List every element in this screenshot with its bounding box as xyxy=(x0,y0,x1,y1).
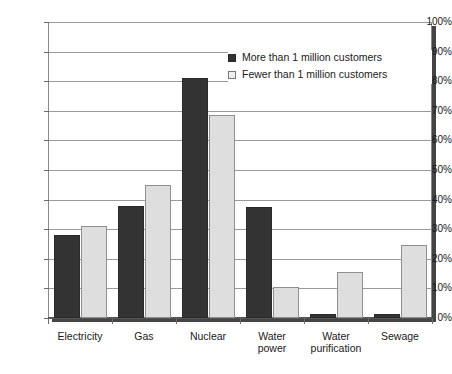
x-category-label-electricity: Electricity xyxy=(48,330,112,342)
x-category-label-gas: Gas xyxy=(112,330,176,342)
bar-water-power-fewer xyxy=(273,287,299,318)
bar-water-power-more xyxy=(246,207,272,318)
x-category-label-line: Sewage xyxy=(381,330,419,342)
x-category-label-line: Nuclear xyxy=(190,330,226,342)
x-category-label-line: Water xyxy=(322,330,350,342)
bar-nuclear-more xyxy=(182,78,208,318)
legend-item-more: More than 1 million customers xyxy=(228,50,432,65)
legend-item-fewer: Fewer than 1 million customers xyxy=(228,67,432,82)
x-category-label-water-power: Waterpower xyxy=(240,330,304,354)
bar-sewage-more xyxy=(374,314,400,318)
x-tick-mark xyxy=(432,318,433,324)
x-category-label-line: Gas xyxy=(134,330,153,342)
x-category-label-line: Electricity xyxy=(58,330,103,342)
legend-swatch-fewer-icon xyxy=(228,71,236,79)
bar-nuclear-fewer xyxy=(209,115,235,318)
x-category-label-sewage: Sewage xyxy=(368,330,432,342)
legend-label-fewer: Fewer than 1 million customers xyxy=(242,69,387,80)
x-tick-mark xyxy=(240,318,241,324)
chart-legend: More than 1 million customers Fewer than… xyxy=(228,50,432,84)
bar-gas-fewer xyxy=(145,185,171,318)
x-tick-mark xyxy=(48,318,49,324)
bar-sewage-fewer xyxy=(401,245,427,318)
x-tick-mark xyxy=(176,318,177,324)
x-category-label-line: power xyxy=(240,342,304,354)
x-category-label-line: purification xyxy=(304,342,368,354)
bar-electricity-more xyxy=(54,235,80,318)
bar-gas-more xyxy=(118,206,144,318)
x-tick-mark xyxy=(112,318,113,324)
bar-electricity-fewer xyxy=(81,226,107,318)
bar-water-purification-more xyxy=(310,314,336,318)
bar-water-purification-fewer xyxy=(337,272,363,318)
x-tick-mark xyxy=(304,318,305,324)
x-category-label-water-purification: Waterpurification xyxy=(304,330,368,354)
x-category-label-nuclear: Nuclear xyxy=(176,330,240,342)
x-tick-mark xyxy=(368,318,369,324)
x-category-label-line: Water xyxy=(258,330,286,342)
legend-swatch-more-icon xyxy=(228,54,236,62)
bar-chart: 0%10%20%30%40%50%60%70%80%90%100% Electr… xyxy=(0,0,452,374)
legend-label-more: More than 1 million customers xyxy=(242,52,382,63)
